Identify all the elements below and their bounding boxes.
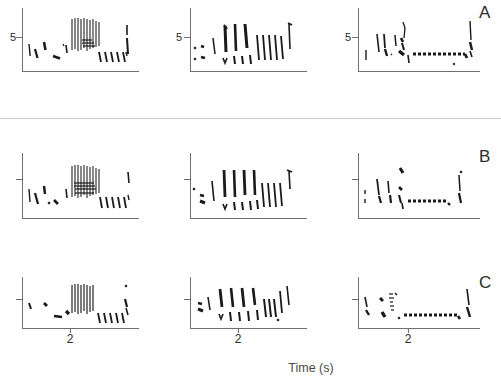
- x-tick-label-c2: 2: [228, 333, 248, 345]
- panel-b1: [22, 153, 139, 219]
- panel-a3: [358, 8, 480, 72]
- x-axis-title: Time (s): [251, 362, 371, 375]
- panel-b2: [190, 153, 307, 219]
- panel-c1-spectrogram: [22, 277, 139, 329]
- panel-b2-spectrogram: [190, 153, 307, 219]
- panel-a1-spectrogram: [22, 8, 139, 72]
- x-tick-label-c1: 2: [60, 333, 80, 345]
- panel-c3-spectrogram: [358, 277, 480, 329]
- panel-c3: 2: [358, 277, 480, 329]
- x-tick-label-c3: 2: [398, 333, 418, 345]
- row-label-a: A: [479, 4, 490, 21]
- y-tick-label-a2: 5: [168, 32, 182, 43]
- y-tick-label-a3: 5: [337, 32, 351, 43]
- y-tick-label-a1: 5: [2, 32, 16, 43]
- row-separator: [0, 118, 501, 119]
- row-label-c: C: [479, 274, 491, 291]
- panel-b3-spectrogram: [358, 153, 480, 219]
- spectrogram-figure: 5 5 5 A: [0, 0, 501, 386]
- panel-b1-spectrogram: [22, 153, 139, 219]
- panel-c2: 2: [190, 277, 307, 329]
- panel-b3: [358, 153, 480, 219]
- panel-c2-spectrogram: [190, 277, 307, 329]
- panel-a3-spectrogram: [358, 8, 480, 72]
- panel-a2: [190, 8, 307, 72]
- panel-c1: 2: [22, 277, 139, 329]
- panel-a1: [22, 8, 139, 72]
- panel-a2-spectrogram: [190, 8, 307, 72]
- row-label-b: B: [479, 148, 490, 165]
